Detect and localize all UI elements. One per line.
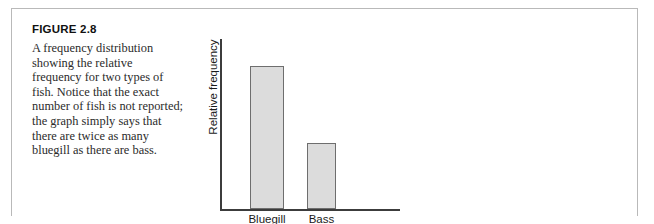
bar-chart: Relative frequency Bluegill Bass Type of… (190, 23, 430, 224)
y-axis-line (220, 39, 222, 211)
figure-panel: FIGURE 2.8 A frequency distribution show… (11, 8, 638, 216)
bar-bluegill (250, 66, 284, 209)
plot-area: Bluegill Bass Type of fish (220, 39, 400, 211)
y-axis-title: Relative frequency (207, 17, 219, 157)
figure-caption-text: A frequency distribution showing the rel… (32, 41, 184, 158)
figure-number-label: FIGURE 2.8 (32, 23, 184, 35)
x-tick-label-bass: Bass (299, 213, 344, 224)
x-axis-line (220, 209, 400, 211)
figure-caption-block: FIGURE 2.8 A frequency distribution show… (32, 23, 184, 158)
x-tick-label-bluegill: Bluegill (235, 213, 299, 224)
bar-bass (307, 143, 336, 209)
